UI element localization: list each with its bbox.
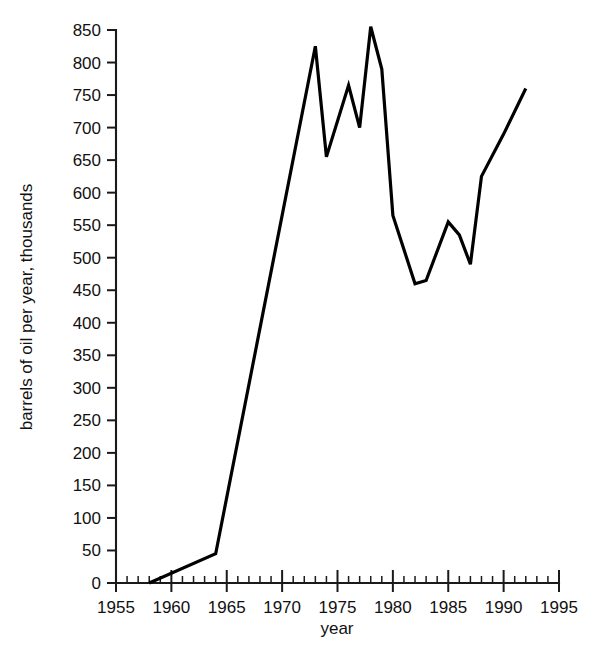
x-tick-label: 1995	[540, 598, 578, 617]
y-tick-label: 700	[73, 119, 101, 138]
y-tick-label: 250	[73, 411, 101, 430]
y-tick-label: 500	[73, 249, 101, 268]
line-chart: 0501001502002503003504004505005506006507…	[0, 0, 594, 659]
y-tick-label: 400	[73, 314, 101, 333]
y-tick-label: 850	[73, 21, 101, 40]
x-tick-label: 1965	[208, 598, 246, 617]
y-tick-label: 50	[82, 541, 101, 560]
chart-svg: 0501001502002503003504004505005506006507…	[0, 0, 594, 659]
y-tick-label: 150	[73, 476, 101, 495]
y-tick-label: 200	[73, 444, 101, 463]
x-axis-tick-labels: 195519601965197019751980198519901995	[97, 598, 578, 617]
x-tick-label: 1955	[97, 598, 135, 617]
y-tick-label: 350	[73, 346, 101, 365]
y-tick-label: 450	[73, 281, 101, 300]
x-tick-label: 1960	[152, 598, 190, 617]
y-tick-label: 300	[73, 379, 101, 398]
x-tick-label: 1975	[319, 598, 357, 617]
y-tick-label: 550	[73, 216, 101, 235]
x-tick-label: 1970	[263, 598, 301, 617]
y-tick-label: 600	[73, 184, 101, 203]
x-tick-label: 1980	[374, 598, 412, 617]
y-tick-label: 650	[73, 151, 101, 170]
y-tick-label: 100	[73, 509, 101, 528]
x-tick-label: 1985	[429, 598, 467, 617]
x-axis-title: year	[320, 619, 353, 638]
y-axis-title: barrels of oil per year, thousands	[17, 184, 36, 431]
x-tick-label: 1990	[485, 598, 523, 617]
y-tick-label: 0	[92, 574, 101, 593]
y-tick-label: 800	[73, 54, 101, 73]
y-tick-label: 750	[73, 86, 101, 105]
